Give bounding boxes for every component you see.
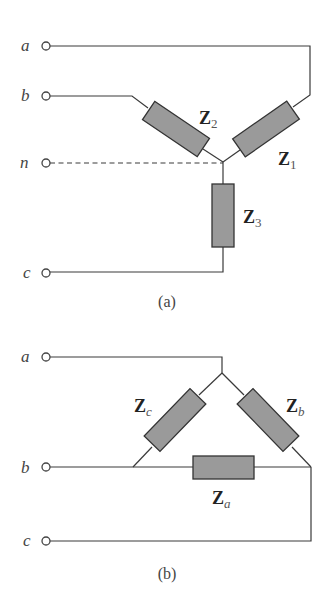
wire-zb-base xyxy=(292,447,311,467)
wire-z2-junction xyxy=(203,149,223,162)
wire-c xyxy=(50,467,311,541)
caption-b: (b) xyxy=(158,565,177,583)
impedance-label-zc: Zc xyxy=(134,396,152,419)
terminal-b xyxy=(42,92,50,100)
terminal-label-b: b xyxy=(21,458,30,477)
impedance-label-z2: Z2 xyxy=(199,108,218,131)
terminal-c xyxy=(42,537,50,545)
impedance-za-box xyxy=(193,456,254,479)
caption-a: (a) xyxy=(158,293,176,311)
terminal-a xyxy=(42,42,50,50)
terminal-label-a: a xyxy=(21,347,30,366)
terminal-label-b: b xyxy=(21,86,30,105)
terminal-label-c: c xyxy=(23,263,31,282)
wire-a xyxy=(50,46,310,107)
terminal-label-a: a xyxy=(21,36,30,55)
wire-apex-zb xyxy=(222,373,244,395)
impedance-label-z1: Z1 xyxy=(278,149,297,172)
terminal-a xyxy=(42,353,50,361)
impedance-z3-box xyxy=(212,184,234,247)
wire-apex-zc xyxy=(199,373,222,395)
figure-b-delta: a b c Zc Zb Za (b) xyxy=(21,347,311,583)
terminal-n xyxy=(42,159,50,167)
wire-z1-junction xyxy=(223,150,240,162)
impedance-label-zb: Zb xyxy=(286,396,305,419)
terminal-label-n: n xyxy=(20,153,29,172)
wire-b xyxy=(50,96,148,108)
terminal-c xyxy=(42,269,50,277)
terminal-label-c: c xyxy=(23,531,31,550)
impedance-label-z3: Z3 xyxy=(243,207,262,230)
figure-a-wye: a b n c Z2 Z1 Z3 (a) xyxy=(20,36,310,311)
wire-a xyxy=(50,357,222,373)
terminal-b xyxy=(42,463,50,471)
impedance-zc-box xyxy=(144,389,206,452)
wire-c xyxy=(50,247,223,272)
wire-zc-base xyxy=(133,447,152,467)
impedance-label-za: Za xyxy=(212,488,231,511)
circuit-diagram: a b n c Z2 Z1 Z3 (a) a b c Zc Zb xyxy=(0,0,334,590)
